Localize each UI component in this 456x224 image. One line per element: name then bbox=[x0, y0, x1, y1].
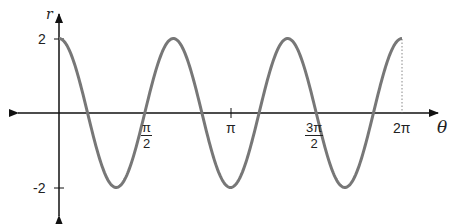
x-tick-label-pi: π bbox=[226, 121, 236, 135]
y-tick-label-neg2: -2 bbox=[33, 181, 45, 195]
plot-canvas bbox=[0, 0, 456, 224]
y-tick-label-2: 2 bbox=[38, 32, 46, 46]
theta-axis-label: θ bbox=[437, 119, 447, 136]
x-tick-label-2pi: 2π bbox=[393, 121, 410, 135]
3pi-half-den: 2 bbox=[305, 136, 323, 150]
3pi-half-num: 3π bbox=[305, 121, 323, 136]
r-axis-label: r bbox=[46, 7, 53, 21]
pi-half-den: 2 bbox=[141, 136, 152, 150]
x-tick-label-3pi-half: 3π 2 bbox=[305, 121, 323, 150]
pi-half-num: π bbox=[141, 121, 152, 136]
x-tick-label-pi-half: π 2 bbox=[141, 121, 152, 150]
